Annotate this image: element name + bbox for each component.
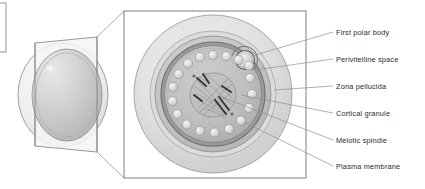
cortical-granule: [174, 69, 183, 78]
cortical-granule: [195, 52, 204, 61]
cortical-granule: [245, 73, 254, 82]
cortical-granule: [168, 82, 177, 91]
specular-highlight: [46, 65, 54, 72]
oocyte-sphere-inner: [32, 49, 102, 141]
label-perivitelline-space: Perivitelline space: [336, 56, 398, 64]
cortical-granule: [244, 61, 253, 70]
cortical-granule: [236, 116, 245, 125]
label-first-polar-body: First polar body: [336, 29, 389, 37]
label-meiotic-spindle: Meiotic spindle: [336, 137, 387, 145]
label-plasma-membrane: Plasma membrane: [336, 163, 400, 171]
cortical-granule: [208, 50, 217, 59]
edge-crop-rectangle: [0, 3, 6, 52]
whole-oocyte-3d-view: [18, 37, 108, 152]
oocyte-cross-section: [134, 15, 292, 173]
figure-canvas: First polar body Perivitelline space Zon…: [0, 0, 425, 189]
cortical-granule: [195, 126, 204, 135]
cortical-granule: [168, 96, 177, 105]
cortical-granule: [182, 120, 191, 129]
cortical-granule: [210, 128, 219, 137]
cortical-granule: [183, 59, 192, 68]
cortical-granule: [234, 55, 243, 64]
label-cortical-granule: Cortical granule: [336, 110, 390, 118]
cortical-granule: [222, 52, 231, 61]
label-zona-pellucida: Zona pellucida: [336, 83, 386, 91]
cortical-granule: [224, 124, 233, 133]
cortical-granule: [244, 103, 253, 112]
cortical-granule: [173, 109, 182, 118]
